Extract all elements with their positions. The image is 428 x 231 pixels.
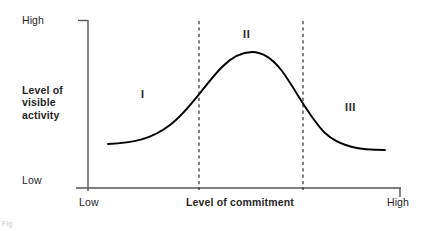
x-axis-min-label: Low — [79, 196, 99, 208]
y-axis-min-label: Low — [22, 174, 42, 186]
region-label-iii: III — [345, 101, 356, 114]
bell-curve-figure: High Low Level of visible activity Low L… — [0, 0, 428, 231]
x-axis-max-label: High — [387, 196, 409, 208]
region-label-ii: II — [243, 28, 250, 41]
y-axis-title-line-2: visible — [22, 96, 63, 108]
bell-curve-path — [108, 52, 385, 150]
y-axis-title-line-1: Level of — [22, 84, 63, 96]
figure-caption-fragment: Fig — [2, 220, 12, 228]
y-axis-title-line-3: activity — [22, 109, 63, 121]
x-axis-title: Level of commitment — [186, 196, 294, 208]
y-axis-max-label: High — [22, 14, 44, 26]
y-axis-title: Level of visible activity — [22, 84, 63, 121]
region-label-i: I — [141, 88, 145, 101]
